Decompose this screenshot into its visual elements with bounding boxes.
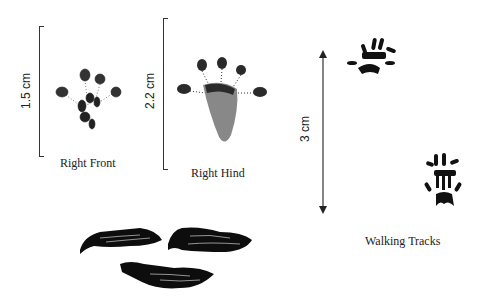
walking-tracks-caption: Walking Tracks (365, 234, 440, 249)
scat-pellet-icon (168, 228, 252, 253)
walking-tracks-scale-label: 3 cm (298, 116, 312, 142)
track-print-bottom-icon (422, 152, 467, 212)
right-hind-scale-label: 2.2 cm (143, 73, 157, 109)
scat-illustration (70, 210, 270, 301)
right-front-footprint-icon (50, 65, 130, 145)
track-print-top-icon (346, 36, 406, 81)
right-hind-caption: Right Hind (191, 166, 245, 181)
scat-pellet-icon (80, 228, 162, 254)
right-hind-footprint-icon (175, 55, 275, 155)
scat-pellet-icon (120, 262, 214, 288)
scale-arrow-icon (317, 50, 329, 214)
right-front-scale-label: 1.5 cm (19, 73, 33, 109)
right-front-scale-bracket (39, 26, 44, 157)
right-front-caption: Right Front (60, 156, 116, 171)
right-hind-scale-bracket (163, 18, 168, 170)
